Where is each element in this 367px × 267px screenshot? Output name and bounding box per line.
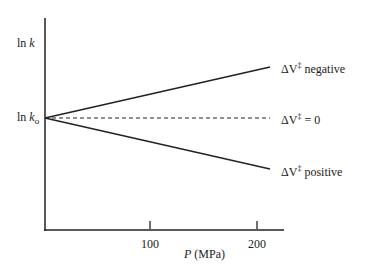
legend-negative: ΔV‡ negative [281,62,345,75]
line-negative [45,67,270,118]
y-label-lnk: ln k [17,37,35,49]
tick-label-100: 100 [141,238,159,250]
line-positive [45,118,270,169]
tick-label-200: 200 [248,238,266,250]
legend-positive: ΔV‡ positive [281,165,342,178]
legend-zero: ΔV‡ = 0 [281,113,320,126]
y-label-lnk0: ln ko [17,111,39,126]
chart-canvas [0,0,367,267]
x-axis-label: P (MPa) [184,248,225,260]
